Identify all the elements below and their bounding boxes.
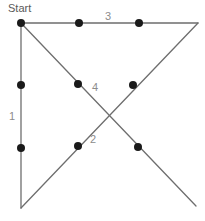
node-lower-right-diag [134,143,142,151]
node-top-2 [135,19,143,27]
node-upper-left-diag [74,80,82,88]
label-start: Start [8,3,31,14]
node-left-1 [17,81,25,89]
node-upper-right-diag [129,81,137,89]
label-segment-4: 4 [92,82,98,93]
edges-group [21,23,198,208]
figure-canvas [0,0,205,221]
node-left-2 [17,144,25,152]
line-drawing-figure: Start3142 [0,0,205,221]
node-lower-left-diag [74,142,82,150]
label-segment-2: 2 [90,134,96,145]
node-start [17,19,25,27]
label-segment-1: 1 [9,111,15,122]
label-segment-3: 3 [105,11,111,22]
node-top-1 [75,19,83,27]
edge-diagonal-down-right [21,23,196,206]
